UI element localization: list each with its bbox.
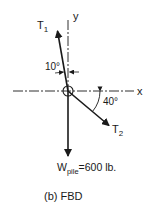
angle-10-marker-left (55, 72, 64, 73)
figure-caption: (b) FBD (44, 190, 83, 202)
free-body-diagram: y x T1 10° 40° T2 Wpile=600 lb. (b) FBD (0, 0, 154, 208)
t1-label: T1 (37, 19, 49, 34)
t2-label: T2 (112, 123, 124, 138)
weight-label: Wpile=600 lb. (57, 161, 116, 176)
x-axis-label: x (137, 85, 143, 97)
angle-40-arc (93, 91, 101, 112)
angle-40-label: 40° (103, 96, 118, 107)
angle-10-label: 10° (45, 61, 60, 72)
y-axis-label: y (73, 10, 79, 22)
